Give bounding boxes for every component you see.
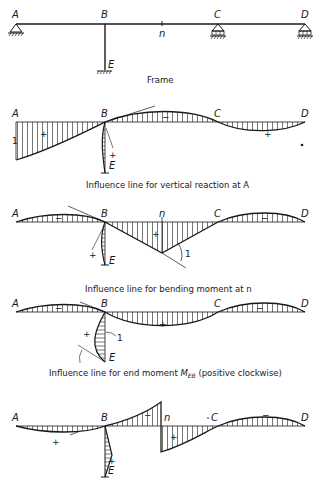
sign: +: [159, 319, 167, 329]
label-b: B: [101, 412, 108, 423]
influence-line-reaction-a: A B C D E 1 + − + + Influence line for v…: [11, 106, 309, 190]
node-n-label: n: [159, 28, 165, 39]
caption-3: Influence line for end moment MEB (posit…: [49, 368, 282, 379]
sign: −: [256, 303, 264, 313]
label-b: B: [101, 108, 108, 119]
label-d: D: [301, 108, 309, 119]
frame-diagram: A B n C D E Frame: [8, 9, 313, 85]
node-c-label: C: [214, 9, 221, 20]
sign: −: [144, 410, 152, 420]
label-c: C: [211, 412, 218, 423]
caption-2: Influence line for bending moment at n: [85, 284, 252, 294]
roller-support-icon: [210, 24, 226, 39]
label-c: C: [214, 298, 221, 309]
structural-diagram: A B n C D E Frame A B C D E 1 + − + + In…: [0, 0, 319, 489]
sign: +: [170, 432, 178, 442]
label-n: n: [164, 412, 170, 423]
label-b: B: [101, 298, 108, 309]
sign: +: [108, 456, 116, 466]
node-d-label: D: [301, 9, 309, 20]
sign: −: [261, 213, 269, 223]
node-b-label: B: [101, 9, 108, 20]
sign: +: [152, 229, 160, 239]
label-a: A: [11, 298, 19, 309]
label-c: C: [214, 108, 221, 119]
sign: −: [162, 112, 170, 122]
fixed-support-icon: [97, 71, 112, 74]
frame-caption: Frame: [147, 75, 173, 85]
sign: +: [89, 250, 97, 260]
influence-line-shear-n: A B n C D E + − + − +: [11, 402, 309, 477]
label-d: D: [301, 412, 309, 423]
roller-support-icon: [297, 24, 313, 39]
sign: −: [55, 303, 63, 313]
label-n: n: [159, 208, 165, 219]
unit-label: 1: [12, 136, 18, 146]
label-d: D: [301, 208, 309, 219]
label-e: E: [109, 255, 116, 266]
unit-label: 1: [185, 249, 191, 259]
label-a: A: [11, 412, 19, 423]
label-c: C: [214, 208, 221, 219]
label-e: E: [108, 465, 115, 476]
sign: +: [264, 129, 272, 139]
label-a: A: [11, 208, 19, 219]
sign: +: [40, 129, 48, 139]
speck: [301, 144, 304, 147]
caption-1: Influence line for vertical reaction at …: [86, 180, 249, 190]
label-b: B: [101, 208, 108, 219]
pin-support-icon: [8, 24, 24, 36]
node-e-label: E: [108, 59, 115, 70]
label-a: A: [11, 108, 19, 119]
label-e: E: [109, 352, 116, 363]
label-d: D: [301, 298, 309, 309]
sign: −: [55, 213, 63, 223]
sign: +: [52, 437, 60, 447]
sign: −: [262, 410, 270, 420]
unit-label: 1: [117, 333, 123, 343]
sign: +: [109, 150, 117, 160]
node-a-label: A: [11, 9, 19, 20]
influence-line-moment-n: A B n C D E 1 − + − + Influence line for…: [11, 206, 309, 294]
influence-line-end-moment-eb: A B C D E 1 − + − + Influence line for e…: [11, 298, 309, 379]
sign: +: [83, 329, 91, 339]
label-e: E: [109, 160, 116, 171]
